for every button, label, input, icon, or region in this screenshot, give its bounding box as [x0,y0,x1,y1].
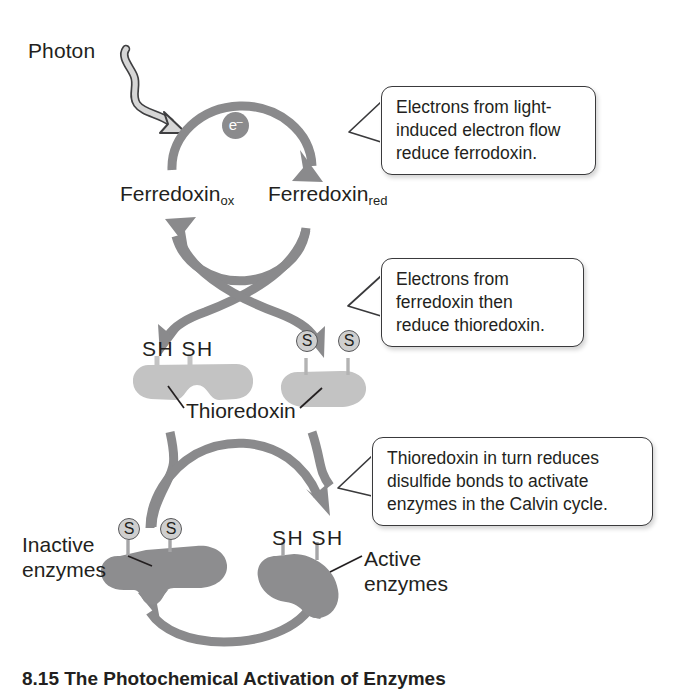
ferredoxin-red-text: Ferredoxin [268,182,368,205]
callout-thioredoxin-reduction: Electrons from ferredoxin then reduce th… [381,258,584,347]
callout-3-line-2: disulfide bonds to activate [387,470,640,493]
callout-2-line-2: ferredoxin then [396,291,571,314]
electron-charge-symbol: – [237,115,243,127]
ferredoxin-ox-text: Ferredoxin [120,182,220,205]
active-enzymes-label: Active enzymes [364,547,474,597]
thioredoxin-sh-sh-label: SH SH [142,338,214,359]
photon-label: Photon [28,40,95,61]
thioredoxin-reduced-shape [133,356,253,400]
callout-1-line-3: reduce ferrodoxin. [396,142,583,165]
thioredoxin-label: Thioredoxin [186,400,296,421]
active-enzyme-shape [258,542,339,618]
callout-3-line-1: Thioredoxin in turn reduces [387,447,640,470]
electron-symbol: e [229,116,237,133]
sulfur-circle-inactive-right: S [160,518,182,540]
callout-2-line-3: reduce thioredoxin. [396,314,571,337]
sulfur-circle-thioredoxin-right: S [338,330,360,352]
ferredoxin-oxidized-label: Ferredoxinox [120,183,235,204]
ferredoxin-reduced-label: Ferredoxinred [268,183,388,204]
callout-1-line-2: induced electron flow [396,119,583,142]
callout-enzyme-activation: Thioredoxin in turn reduces disulfide bo… [372,437,653,526]
photon-arrow [124,49,186,133]
figure-caption: 8.15 The Photochemical Activation of Enz… [22,668,446,690]
callout-ferredoxin-reduction: Electrons from light- induced electron f… [381,86,596,175]
active-enzymes-sh-sh-label: SH SH [272,527,344,548]
inactive-enzymes-label: Inactive enzymes [22,533,142,583]
ferredoxin-red-subscript: red [368,193,387,208]
callout-3-line-3: enzymes in the Calvin cycle. [387,493,640,516]
electron-badge: e– [222,112,249,139]
sulfur-circle-thioredoxin-left: S [296,330,318,352]
callout-1-line-1: Electrons from light- [396,96,583,119]
callout-2-line-1: Electrons from [396,268,571,291]
ferredoxin-ox-subscript: ox [220,193,234,208]
